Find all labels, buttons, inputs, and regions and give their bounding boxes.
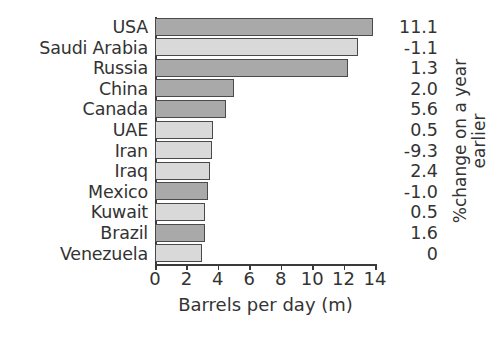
percent-change-value: 2.4	[378, 161, 438, 182]
right-axis-title: %change on a yearearlier	[451, 58, 489, 222]
bar	[155, 203, 205, 221]
category-label: Russia	[0, 58, 152, 79]
x-axis-tick-label: 8	[275, 268, 286, 289]
x-axis-tick-label: 4	[212, 268, 223, 289]
percent-change-values: 11.1-1.11.32.05.60.5-9.32.4-1.00.51.60	[378, 17, 438, 264]
category-label: UAE	[0, 120, 152, 141]
bar-row	[155, 120, 375, 141]
bar	[155, 162, 210, 180]
percent-change-value: -9.3	[378, 141, 438, 162]
percent-change-value: 2.0	[378, 79, 438, 100]
percent-change-value: 11.1	[378, 17, 438, 38]
bar	[155, 79, 234, 97]
x-axis-tick-label: 10	[301, 268, 324, 289]
percent-change-value: 0.5	[378, 120, 438, 141]
bar	[155, 244, 202, 262]
x-axis-tick-labels: 02468101214	[155, 268, 376, 292]
bar-row	[155, 58, 375, 79]
percent-change-value: 0.5	[378, 202, 438, 223]
x-axis-tick-label: 12	[332, 268, 355, 289]
category-axis-labels: USASaudi ArabiaRussiaChinaCanadaUAEIranI…	[0, 17, 152, 264]
bar-row	[155, 244, 375, 265]
bar	[155, 100, 226, 118]
right-axis-title-wrap: %change on a yearearlier	[440, 17, 500, 264]
bar	[155, 182, 208, 200]
bar	[155, 141, 212, 159]
x-axis-tick-label: 14	[364, 268, 387, 289]
bar	[155, 38, 358, 56]
category-label: Mexico	[0, 182, 152, 203]
plot-area	[155, 17, 375, 264]
category-label: USA	[0, 17, 152, 38]
bar-chart: USASaudi ArabiaRussiaChinaCanadaUAEIranI…	[0, 0, 504, 342]
bar-row	[155, 79, 375, 100]
bar-row	[155, 182, 375, 203]
category-label: Iran	[0, 141, 152, 162]
category-label: Brazil	[0, 223, 152, 244]
x-axis-title: Barrels per day (m)	[155, 294, 376, 315]
percent-change-value: 5.6	[378, 99, 438, 120]
x-axis-tick-label: 6	[244, 268, 255, 289]
category-label: Venezuela	[0, 244, 152, 265]
percent-change-value: 1.3	[378, 58, 438, 79]
bar-row	[155, 141, 375, 162]
category-label: Kuwait	[0, 202, 152, 223]
right-axis-title-line: %change on a year	[451, 58, 470, 222]
bar-series	[155, 17, 375, 264]
right-axis-title-line: earlier	[470, 58, 489, 222]
bar-row	[155, 38, 375, 59]
bar-row	[155, 223, 375, 244]
category-label: Saudi Arabia	[0, 38, 152, 59]
bar-row	[155, 17, 375, 38]
percent-change-value: -1.1	[378, 38, 438, 59]
x-axis-tick-label: 2	[181, 268, 192, 289]
bar-row	[155, 99, 375, 120]
percent-change-value: 0	[378, 244, 438, 265]
category-label: Canada	[0, 99, 152, 120]
percent-change-value: 1.6	[378, 223, 438, 244]
bar-row	[155, 161, 375, 182]
category-label: China	[0, 79, 152, 100]
bar	[155, 224, 205, 242]
bar	[155, 18, 373, 36]
bar	[155, 121, 213, 139]
bar-row	[155, 202, 375, 223]
category-label: Iraq	[0, 161, 152, 182]
bar	[155, 59, 348, 77]
x-axis-tick-label: 0	[149, 268, 160, 289]
percent-change-value: -1.0	[378, 182, 438, 203]
